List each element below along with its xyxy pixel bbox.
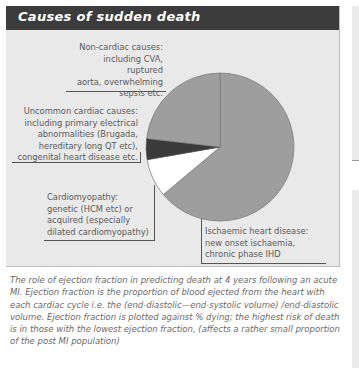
label-uncommon: Uncommon cardiac causes: including prima… [14, 106, 138, 164]
leader-line [201, 263, 326, 264]
label-line: hereditary long QT etc), [14, 141, 138, 153]
label-line: Uncommon cardiac causes: [14, 106, 138, 118]
label-line: Cardiomyopathy: [47, 192, 157, 204]
chart-title: Causes of sudden death [18, 9, 201, 24]
slice-non-cardiac [147, 73, 220, 147]
leader-line [44, 240, 154, 241]
adjacent-panel-edge [352, 190, 359, 368]
label-line: genetic (HCM etc) or [47, 204, 157, 216]
leader-line [140, 152, 141, 163]
label-line: acquired (especially [47, 215, 157, 227]
label-line: dilated cardiomyopathy) [47, 227, 157, 239]
label-ischaemic: Ischaemic heart disease: new onset ischa… [205, 226, 325, 261]
label-line: abnormalities (Brugada, [14, 129, 138, 141]
label-line: new onset ischaemia, [205, 238, 325, 250]
label-cardiomyopathy: Cardiomyopathy: genetic (HCM etc) or acq… [47, 192, 157, 238]
label-line: chronic phase IHD [205, 249, 325, 261]
pie-chart [143, 70, 298, 225]
label-line: Ischaemic heart disease: [205, 226, 325, 238]
adjacent-panel-edge [352, 6, 359, 161]
leader-line [12, 162, 141, 163]
label-line: Non-cardiac causes: [70, 42, 163, 54]
figure-caption: The role of ejection fraction in predict… [10, 274, 340, 348]
title-bar: Causes of sudden death [6, 6, 339, 30]
label-line: including primary electrical [14, 118, 138, 130]
